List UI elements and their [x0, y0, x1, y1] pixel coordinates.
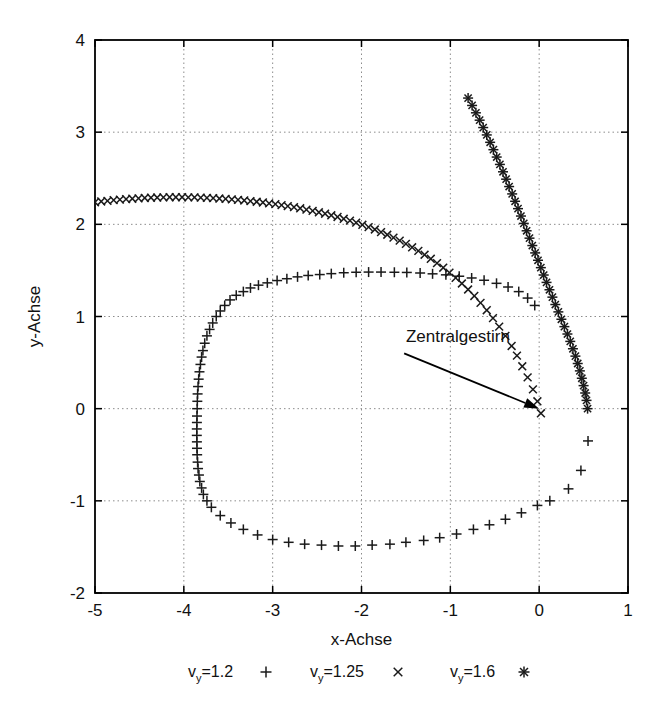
y-tick-label: -1: [70, 492, 85, 511]
y-tick-label: 0: [76, 400, 85, 419]
annotation-label: Zentralgestirn: [406, 327, 510, 346]
x-tick-label: 1: [623, 601, 632, 620]
y-tick-label: 1: [76, 308, 85, 327]
data-point-star: [579, 381, 589, 391]
data-point-star: [573, 359, 583, 369]
y-tick-label: 2: [76, 215, 85, 234]
y-tick-label: 4: [76, 31, 85, 50]
scatter-plot: -5-4-3-2-101-2-101234 Zentralgestirn x-A…: [0, 0, 664, 713]
x-tick-label: -1: [443, 601, 458, 620]
chart-figure: -5-4-3-2-101-2-101234 Zentralgestirn x-A…: [0, 0, 664, 713]
data-point-star: [583, 404, 593, 414]
data-point-star: [519, 667, 530, 678]
data-point-star: [577, 373, 587, 383]
y-tick-label: -2: [70, 584, 85, 603]
x-tick-label: -2: [354, 601, 369, 620]
data-point-star: [580, 388, 590, 398]
data-point-star: [575, 366, 585, 376]
data-point-star: [570, 351, 580, 361]
y-tick-label: 3: [76, 123, 85, 142]
x-tick-label: 0: [534, 601, 543, 620]
data-point-star: [568, 344, 578, 354]
data-point-star: [582, 395, 592, 405]
x-tick-label: -5: [87, 601, 102, 620]
x-tick-label: -3: [265, 601, 280, 620]
x-tick-label: -4: [176, 601, 191, 620]
y-axis-label: y-Achse: [25, 286, 44, 347]
data-point-star: [565, 336, 575, 346]
x-axis-label: x-Achse: [331, 630, 392, 649]
